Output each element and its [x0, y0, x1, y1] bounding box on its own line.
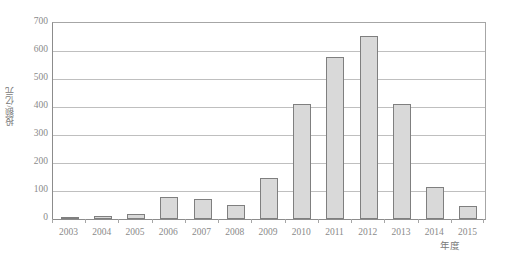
bar-slot: [385, 23, 418, 219]
y-axis-title: 投额/亿元: [2, 52, 18, 162]
bar-slot: [286, 23, 319, 219]
bar-2011: [326, 57, 344, 219]
tick-mark: [318, 219, 319, 223]
y-tick-label: 300: [18, 129, 48, 139]
tick-cell: [418, 219, 451, 223]
x-tick-label-2010: 2010: [285, 226, 318, 240]
tick-cell: [52, 219, 85, 223]
x-axis-title: 年度: [440, 240, 500, 252]
tick-cell: [285, 219, 318, 223]
bar-slot: [219, 23, 252, 219]
bar-slot: [119, 23, 152, 219]
tick-mark: [185, 219, 186, 223]
x-tick-label-2004: 2004: [85, 226, 118, 240]
bar-2008: [227, 205, 245, 219]
tick-mark: [118, 219, 119, 223]
tick-cell: [251, 219, 284, 223]
tick-mark: [85, 219, 86, 223]
tick-mark: [152, 219, 153, 223]
x-tick-label-2015: 2015: [451, 226, 484, 240]
tick-mark: [285, 219, 286, 223]
x-tick-label-2013: 2013: [384, 226, 417, 240]
bar-slot: [319, 23, 352, 219]
y-tick-label: 500: [18, 73, 48, 83]
tick-mark: [451, 219, 452, 223]
bar-2012: [360, 36, 378, 219]
bar-2013: [393, 104, 411, 219]
x-tick-label-2007: 2007: [185, 226, 218, 240]
bar-2006: [160, 197, 178, 219]
tick-cell: [152, 219, 185, 223]
y-tick-label: 200: [18, 157, 48, 167]
tick-mark: [251, 219, 252, 223]
y-tick-label: 700: [18, 17, 48, 27]
bar-slot: [419, 23, 452, 219]
x-axis-tick-labels: 2003 2004 2005 2006 2007 2008 2009 2010 …: [52, 226, 484, 240]
x-axis-tick-marks: [52, 219, 484, 223]
bar-2015: [459, 206, 477, 219]
x-tick-label-2012: 2012: [351, 226, 384, 240]
y-axis-tick-labels: 700 600 500 400 300 200 100 0: [18, 0, 48, 262]
tick-cell: [351, 219, 384, 223]
bar-slot: [53, 23, 86, 219]
tick-cell: [85, 219, 118, 223]
tick-mark: [483, 219, 484, 223]
bar-2010: [293, 104, 311, 219]
bar-2009: [260, 178, 278, 219]
tick-cell: [218, 219, 251, 223]
bar-slot: [352, 23, 385, 219]
y-tick-label: 400: [18, 101, 48, 111]
bar-slot: [452, 23, 485, 219]
plot-area: [52, 22, 486, 220]
bar-slot: [252, 23, 285, 219]
tick-cell: [185, 219, 218, 223]
bar-series: [53, 23, 485, 219]
x-tick-label-2003: 2003: [52, 226, 85, 240]
x-tick-label-2014: 2014: [418, 226, 451, 240]
tick-cell: [118, 219, 151, 223]
bar-slot: [153, 23, 186, 219]
tick-mark: [218, 219, 219, 223]
tick-mark: [351, 219, 352, 223]
x-tick-label-2006: 2006: [152, 226, 185, 240]
x-tick-label-2011: 2011: [318, 226, 351, 240]
y-tick-label: 0: [18, 213, 48, 223]
tick-mark: [418, 219, 419, 223]
tick-cell: [384, 219, 417, 223]
tick-mark: [384, 219, 385, 223]
y-tick-label: 600: [18, 45, 48, 55]
bar-chart: 投额/亿元 700 600 500 400 300 200 100 0: [0, 0, 516, 262]
bar-2007: [194, 199, 212, 219]
y-tick-label: 100: [18, 185, 48, 195]
bar-slot: [186, 23, 219, 219]
tick-cell: [451, 219, 484, 223]
tick-cell: [318, 219, 351, 223]
x-tick-label-2009: 2009: [251, 226, 284, 240]
tick-mark: [52, 219, 53, 223]
x-tick-label-2005: 2005: [118, 226, 151, 240]
x-tick-label-2008: 2008: [218, 226, 251, 240]
bar-slot: [86, 23, 119, 219]
bar-2014: [426, 187, 444, 219]
